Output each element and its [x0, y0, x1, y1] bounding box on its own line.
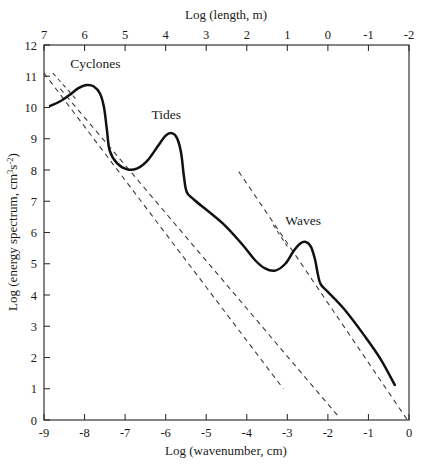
x-tick-label-bottom: 0: [406, 426, 412, 440]
x-tick-label-top: 1: [284, 28, 290, 42]
x-tick-label-bottom: -2: [323, 426, 333, 440]
y-tick-label: 10: [25, 101, 38, 115]
x-tick-label-top: 5: [122, 28, 128, 42]
x-tick-label-bottom: -5: [201, 426, 211, 440]
x-tick-label-bottom: -4: [242, 426, 253, 440]
y-tick-label: 5: [31, 257, 37, 271]
cyclones-label: Cyclones: [70, 56, 120, 71]
x-tick-label-top: -2: [404, 28, 414, 42]
y-axis-label-group: Log (energy spectrum, cm3s-2): [5, 153, 20, 311]
y-tick-label: 7: [31, 195, 37, 209]
y-tick-label: 12: [25, 39, 38, 53]
x-tick-label-bottom: -9: [39, 426, 49, 440]
y-tick-label: 6: [31, 226, 37, 240]
x-tick-label-top: -1: [363, 28, 373, 42]
chart-background: [0, 0, 431, 470]
y-tick-label: 11: [25, 70, 37, 84]
y-tick-label: 8: [31, 164, 37, 178]
y-tick-label: 9: [31, 132, 37, 146]
y-tick-label: 4: [31, 289, 38, 303]
waves-label: Waves: [285, 213, 321, 228]
chart-canvas: -9-8-7-6-5-4-3-2-10 76543210-1-2 0123456…: [0, 0, 431, 470]
x-tick-label-bottom: -8: [79, 426, 89, 440]
x-axis-top-label: Log (length, m): [185, 7, 267, 22]
energy-spectrum-chart: -9-8-7-6-5-4-3-2-10 76543210-1-2 0123456…: [0, 0, 431, 470]
y-tick-label: 1: [31, 382, 37, 396]
x-tick-label-bottom: -3: [282, 426, 292, 440]
x-tick-label-top: 0: [325, 28, 331, 42]
x-tick-label-top: 2: [244, 28, 250, 42]
y-axis-label: Log (energy spectrum, cm3s-2): [5, 153, 20, 311]
x-tick-label-top: 4: [163, 28, 170, 42]
x-tick-label-top: 6: [81, 28, 87, 42]
x-tick-label-bottom: -7: [120, 426, 130, 440]
y-tick-label: 2: [31, 351, 37, 365]
x-tick-label-top: 3: [203, 28, 209, 42]
x-axis-bottom-label: Log (wavenumber, cm): [165, 443, 287, 458]
x-tick-label-bottom: -1: [363, 426, 373, 440]
y-tick-label: 0: [31, 414, 37, 428]
x-tick-label-bottom: -6: [160, 426, 170, 440]
y-tick-label: 3: [31, 320, 37, 334]
tides-label: Tides: [151, 107, 181, 122]
x-tick-label-top: 7: [41, 28, 47, 42]
